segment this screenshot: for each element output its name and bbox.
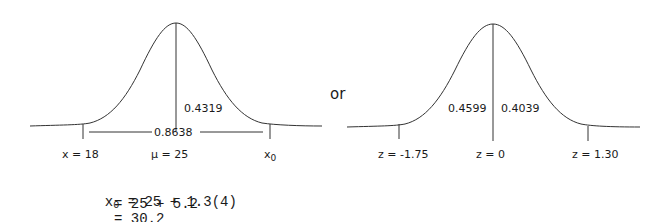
area-label-left-z: 0.4599 [448, 103, 487, 114]
label-x0: x0 [264, 149, 276, 160]
area-label-right-half: 0.4319 [184, 103, 223, 114]
label-x-18: x = 18 [62, 149, 99, 160]
label-x0-base: x [264, 148, 271, 161]
calc-lhs-base: x [105, 194, 113, 210]
label-z-neg: z = -1.75 [378, 149, 428, 160]
label-x0-sub: 0 [271, 153, 277, 163]
or-connector: or [330, 87, 345, 102]
label-z-pos: z = 1.30 [572, 149, 618, 160]
label-mu-25: μ = 25 [151, 149, 188, 160]
calc-line-3: = 30.2 [114, 212, 164, 222]
area-label-between: 0.8638 [154, 127, 193, 138]
label-z-zero: z = 0 [476, 149, 505, 160]
calc-line-2: = 25 + 5.2 [114, 197, 198, 211]
area-label-right-z: 0.4039 [501, 103, 540, 114]
